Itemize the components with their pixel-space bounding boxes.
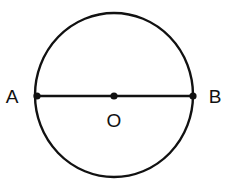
label-a: A <box>6 86 19 107</box>
diagram-canvas: A O B <box>0 0 231 190</box>
point-a <box>33 92 40 99</box>
point-b <box>189 92 196 99</box>
circle-diagram: A O B <box>0 0 231 190</box>
label-o: O <box>107 110 122 131</box>
label-b: B <box>209 86 222 107</box>
point-o <box>110 92 117 99</box>
